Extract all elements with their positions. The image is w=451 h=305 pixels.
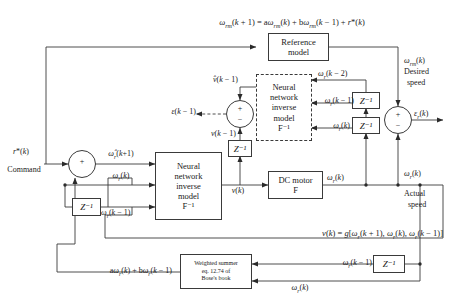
nn-estimator-line5: F⁻¹ — [278, 123, 290, 133]
nn-inverse-controller-block[interactable]: Neural network inverse model F⁻¹ — [155, 152, 222, 220]
delay-block-omega-k1[interactable]: Z⁻¹ — [352, 117, 380, 134]
nn-controller-line2: network — [175, 171, 203, 181]
junction-dot-motor-delays — [364, 183, 367, 186]
label-actual-speed-1: Actual — [404, 190, 425, 199]
bottom-equation: v(k) = g[ωr(k + 1), ωr(k), ωr(k − 1)] — [322, 229, 443, 241]
label-omega-rm-symbol: ωrm(k) — [404, 57, 425, 67]
estimator-sum-minus-sign: − — [238, 116, 243, 124]
junction-dot-ws-feed — [418, 183, 421, 186]
label-weighted-output: aωr(k) + bωr(k − 1) — [110, 267, 172, 277]
nn-estimator-line1: Neural — [272, 82, 295, 92]
estimator-sum-plus-sign: + — [238, 105, 243, 113]
block-diagram: ωrm(k + 1) = aωrm(k) + bωrm(k − 1) + r*(… — [0, 0, 451, 305]
delay-wr-left-label: Z⁻¹ — [80, 202, 92, 212]
label-omega-r-actual-symbol: ωr(k) — [404, 170, 421, 180]
weighted-summer-line2: eq. 12.74 of — [202, 268, 231, 276]
label-command-symbol: r*(k) — [13, 148, 29, 157]
nn-estimator-line2: network — [270, 92, 298, 102]
label-desired-speed-2: speed — [407, 79, 425, 88]
nn-estimator-line3: inverse — [272, 102, 297, 112]
delay-block-v[interactable]: Z⁻¹ — [228, 140, 252, 157]
command-sum-plus-sign: + — [80, 158, 85, 166]
delay-v-label: Z⁻¹ — [234, 144, 246, 154]
delay-ws-label: Z⁻¹ — [383, 259, 395, 269]
nn-inverse-estimator-block[interactable]: Neural network inverse model F⁻¹ — [256, 74, 312, 141]
top-equation: ωrm(k + 1) = aωrm(k) + bωrm(k − 1) + r*(… — [219, 18, 365, 30]
output-sum-plus-sign: + — [396, 111, 401, 119]
dc-motor-line2: F — [293, 185, 298, 195]
junction-dot-motor-error — [396, 183, 399, 186]
nn-controller-line1: Neural — [177, 161, 200, 171]
dc-motor-line1: DC motor — [278, 175, 312, 185]
delay-block-omega-left[interactable]: Z⁻¹ — [72, 198, 101, 216]
delay-block-weighted-summer[interactable]: Z⁻¹ — [373, 255, 405, 273]
nn-controller-line3: inverse — [176, 181, 201, 191]
output-sum-minus-sign: − — [396, 122, 401, 130]
label-omega-r-k-ws: ωr(k) — [292, 284, 309, 294]
label-omega-r-k-minus-1-estimator: ωr(k − 1) — [325, 97, 354, 107]
reference-model-line2: model — [288, 47, 309, 57]
label-v-k: v(k) — [232, 187, 244, 196]
label-v-k-minus-1: v(k − 1) — [211, 130, 236, 139]
delay-wr-k2-label: Z⁻¹ — [360, 96, 372, 106]
reference-model-line1: Reference — [281, 37, 315, 47]
weighted-summer-line3: Bose's book — [202, 275, 231, 283]
label-omega-r-k-motor-out: ωr(k) — [327, 174, 344, 184]
nn-controller-line4: model — [178, 191, 199, 201]
label-v-hat-k-minus-1: v̂(k − 1) — [213, 76, 238, 85]
junction-dot-ws-z — [418, 262, 421, 265]
nn-controller-line5: F⁻¹ — [183, 201, 195, 211]
weighted-summer-line1: Weighted summer — [194, 260, 238, 268]
dc-motor-block[interactable]: DC motor F — [268, 171, 323, 199]
label-actual-speed-2: speed — [408, 201, 426, 210]
label-omega-r-k-estimator: ωr(k) — [333, 122, 350, 132]
label-omega-r-k-minus-1-nn-input: ωr(k − 1) — [101, 209, 130, 219]
label-epsilon-r: εr(k) — [414, 110, 428, 120]
nn-estimator-line4: model — [273, 113, 294, 123]
weighted-summer-block[interactable]: Weighted summer eq. 12.74 of Bose's book — [180, 254, 252, 289]
label-epsilon-k-minus-1: ε(k − 1) — [171, 108, 196, 117]
label-omega-r-k-nn-input: ωr(k) — [113, 172, 130, 182]
label-omega-hat-r-k-plus-1: ω̂r(k+1) — [108, 150, 133, 160]
reference-model-block[interactable]: Reference model — [268, 33, 329, 61]
label-omega-r-k-minus-1-ws: ωr(k − 1) — [343, 259, 372, 269]
label-command-caption: Command — [7, 166, 40, 175]
delay-wr-k1-label: Z⁻¹ — [360, 121, 372, 131]
label-omega-r-k-minus-2: ωr(k − 2) — [318, 70, 347, 80]
label-desired-speed-1: Desired — [404, 68, 429, 77]
delay-block-omega-k2[interactable]: Z⁻¹ — [352, 92, 380, 109]
